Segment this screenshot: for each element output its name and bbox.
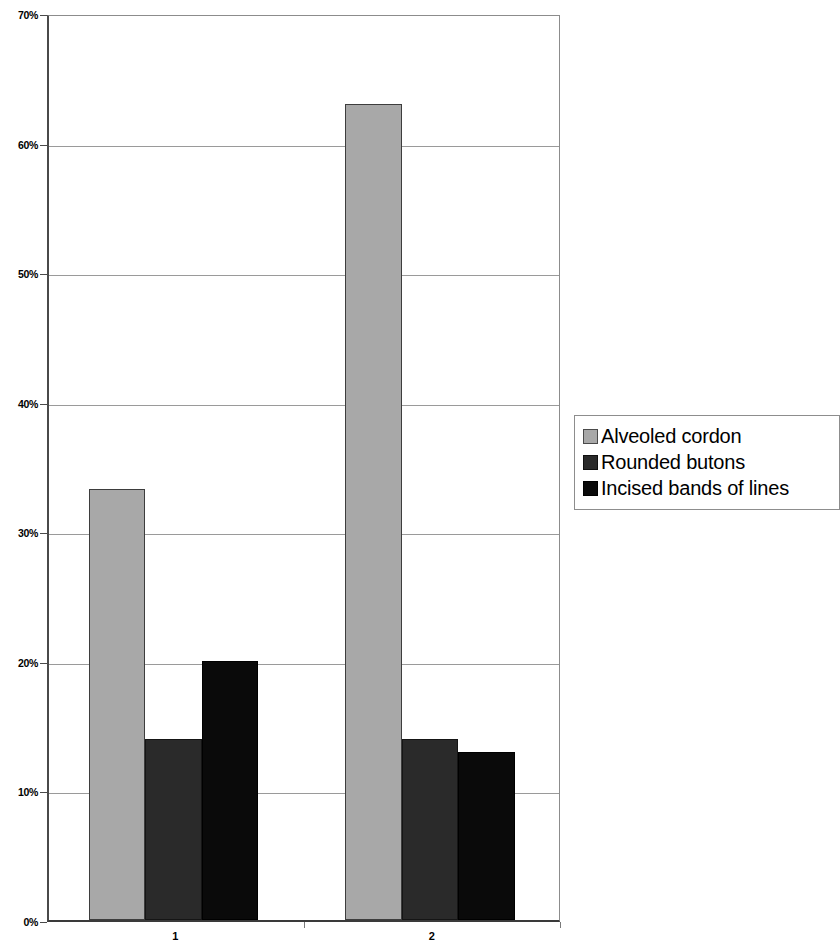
legend-swatch-icon-2 — [583, 481, 598, 496]
y-axis-label-60%: 60% — [2, 140, 38, 151]
y-tick-50% — [40, 274, 47, 275]
y-tick-20% — [40, 663, 47, 664]
y-tick-60% — [40, 145, 47, 146]
x-axis-label-1: 1 — [155, 930, 195, 942]
y-tick-70% — [40, 15, 47, 16]
legend-swatch-icon-1 — [583, 455, 598, 470]
y-axis-label-40%: 40% — [2, 399, 38, 410]
chart-legend: Alveoled cordon Rounded butons Incised b… — [574, 415, 840, 510]
x-tick-1 — [304, 922, 305, 928]
y-tick-0% — [40, 922, 47, 923]
y-tick-30% — [40, 533, 47, 534]
legend-label-0: Alveoled cordon — [601, 426, 741, 446]
legend-label-1: Rounded butons — [601, 452, 745, 472]
y-axis-label-50%: 50% — [2, 269, 38, 280]
bar-cat2-series1 — [402, 739, 459, 920]
y-axis-label-10%: 10% — [2, 787, 38, 798]
legend-item-0[interactable]: Alveoled cordon — [583, 423, 833, 449]
y-axis-label-70%: 70% — [2, 10, 38, 21]
plot-area — [47, 15, 560, 922]
legend-swatch-icon-0 — [583, 429, 598, 444]
bar-cat1-series2 — [202, 661, 259, 920]
x-axis-label-2: 2 — [412, 930, 452, 942]
bar-cat2-series2 — [458, 752, 515, 920]
bar-cat2-series0 — [345, 104, 402, 920]
bar-cat1-series1 — [145, 739, 202, 920]
gridline-40% — [49, 405, 559, 406]
legend-label-2: Incised bands of lines — [601, 478, 789, 498]
y-axis-label-20%: 20% — [2, 658, 38, 669]
legend-item-1[interactable]: Rounded butons — [583, 449, 833, 475]
bar-cat1-series0 — [89, 489, 146, 920]
y-tick-40% — [40, 404, 47, 405]
y-axis-label-30%: 30% — [2, 528, 38, 539]
bar-chart: 0%10%20%30%40%50%60%70% 12 Alveoled cord… — [0, 0, 840, 952]
x-tick-2 — [560, 922, 561, 928]
y-axis-label-0%: 0% — [2, 917, 38, 928]
gridline-60% — [49, 146, 559, 147]
legend-item-2[interactable]: Incised bands of lines — [583, 475, 833, 501]
gridline-50% — [49, 275, 559, 276]
y-tick-10% — [40, 792, 47, 793]
